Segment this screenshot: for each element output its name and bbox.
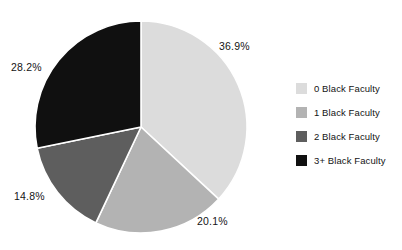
pie-slice-group xyxy=(35,21,247,233)
legend-item[interactable]: 3+ Black Faculty xyxy=(296,148,402,172)
legend-item-label: 2 Black Faculty xyxy=(314,131,380,142)
legend-item-label: 3+ Black Faculty xyxy=(314,155,386,166)
pie-plot-area: 36.9% 20.1% 14.8% 28.2% xyxy=(0,0,286,250)
legend-swatch-icon xyxy=(296,83,307,94)
legend-item[interactable]: 1 Black Faculty xyxy=(296,100,402,124)
legend-item[interactable]: 2 Black Faculty xyxy=(296,124,402,148)
pie-svg xyxy=(0,0,286,250)
legend-item[interactable]: 0 Black Faculty xyxy=(296,76,402,100)
slice-percent-label-0: 36.9% xyxy=(219,40,250,52)
legend-swatch-icon xyxy=(296,155,307,166)
pie-chart-figure: 36.9% 20.1% 14.8% 28.2% 0 Black Faculty … xyxy=(0,0,402,250)
legend-swatch-icon xyxy=(296,107,307,118)
slice-percent-label-1: 20.1% xyxy=(197,215,228,227)
pie-slice[interactable] xyxy=(35,21,141,148)
legend-swatch-icon xyxy=(296,131,307,142)
legend-item-label: 0 Black Faculty xyxy=(314,83,380,94)
slice-percent-label-3: 28.2% xyxy=(11,61,42,73)
chart-legend: 0 Black Faculty 1 Black Faculty 2 Black … xyxy=(296,76,402,172)
legend-item-label: 1 Black Faculty xyxy=(314,107,380,118)
slice-percent-label-2: 14.8% xyxy=(14,190,45,202)
